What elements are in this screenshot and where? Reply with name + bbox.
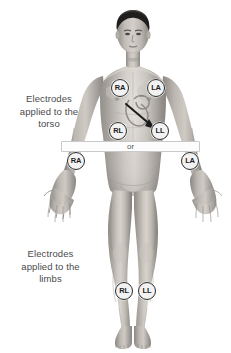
human-body-illustration bbox=[0, 0, 231, 353]
electrode-label: LL bbox=[143, 287, 152, 295]
legs bbox=[108, 190, 158, 328]
feet bbox=[115, 326, 151, 349]
electrode-label: RA bbox=[115, 84, 125, 92]
electrode-torso-rl[interactable]: RL bbox=[109, 122, 127, 140]
caption-torso-electrodes: Electrodes applied to the torso bbox=[3, 93, 95, 131]
ecg-electrode-placement-figure: Electrodes applied to the torso Electrod… bbox=[0, 0, 231, 353]
head-and-neck bbox=[116, 10, 151, 68]
electrode-label: RA bbox=[71, 157, 81, 165]
electrode-limb-ll[interactable]: LL bbox=[138, 282, 156, 300]
caption-limb-electrodes: Electrodes applied to the limbs bbox=[3, 248, 98, 286]
electrode-limb-ra[interactable]: RA bbox=[67, 152, 85, 170]
electrode-label: LA bbox=[151, 84, 161, 92]
electrode-limb-la[interactable]: LA bbox=[181, 152, 199, 170]
electrode-torso-ra[interactable]: RA bbox=[111, 79, 129, 97]
figure-silhouette bbox=[44, 10, 222, 349]
electrode-label: RL bbox=[113, 127, 123, 135]
or-separator-bar: or bbox=[61, 141, 200, 152]
electrode-label: RL bbox=[119, 287, 129, 295]
or-label: or bbox=[127, 142, 134, 151]
electrode-label: LA bbox=[185, 157, 195, 165]
electrode-torso-ll[interactable]: LL bbox=[151, 122, 169, 140]
electrode-label: LL bbox=[156, 127, 165, 135]
electrode-torso-la[interactable]: LA bbox=[147, 79, 165, 97]
electrode-limb-rl[interactable]: RL bbox=[115, 282, 133, 300]
